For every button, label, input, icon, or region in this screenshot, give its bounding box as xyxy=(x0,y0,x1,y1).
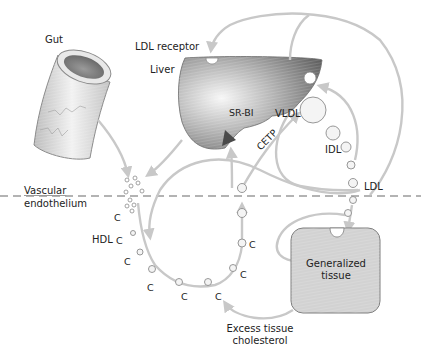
ldl-receptor-label: LDL receptor xyxy=(135,41,199,53)
cholesterol-transport-diagram: Gut LDL receptor Liver SR-BI VLDL CETP I… xyxy=(0,0,421,360)
vldl-label: VLDL xyxy=(275,108,301,120)
generalized-tissue-label: Generalized tissue xyxy=(300,258,372,281)
vldl-idl-ldl-particles xyxy=(300,97,358,217)
idl-label: IDL xyxy=(325,144,341,156)
generalized-label-line1: Generalized xyxy=(300,258,372,270)
vldl-particle xyxy=(300,97,326,123)
cholesterol-marker: C xyxy=(124,256,131,267)
gut-label: Gut xyxy=(45,34,63,46)
vascular-label: Vascular xyxy=(24,185,66,197)
ldl-label: LDL xyxy=(364,181,383,193)
cholesterol-marker: C xyxy=(249,239,256,250)
sr-bi-label: SR-BI xyxy=(229,108,254,119)
cholesterol-marker: C xyxy=(114,212,121,223)
ldl-receptor-right xyxy=(304,72,316,84)
cholesterol-marker: C xyxy=(215,291,222,302)
cholesterol-marker: C xyxy=(147,282,154,293)
chylomicron-particles xyxy=(124,176,144,213)
cholesterol-marker: C xyxy=(240,269,247,280)
gut-organ xyxy=(34,43,115,159)
hdl-particles xyxy=(131,184,247,286)
excess-label-line2: cholesterol xyxy=(218,335,302,347)
hdl-label: HDL xyxy=(92,234,113,246)
liver-organ xyxy=(178,57,322,150)
cholesterol-marker: C xyxy=(181,291,188,302)
endothelium-label: endothelium xyxy=(24,198,87,210)
diagram-canvas xyxy=(0,0,421,360)
excess-label-line1: Excess tissue xyxy=(218,323,302,335)
cholesterol-marker: C xyxy=(116,235,123,246)
generalized-label-line2: tissue xyxy=(300,270,372,282)
excess-cholesterol-label: Excess tissue cholesterol xyxy=(218,323,302,346)
ldl-particle xyxy=(349,179,358,188)
liver-label: Liver xyxy=(150,64,175,76)
idl-particle xyxy=(341,142,351,152)
